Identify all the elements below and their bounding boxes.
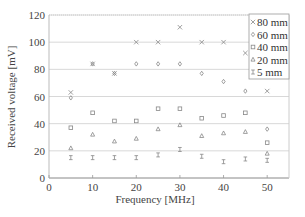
data-point-80mm <box>69 90 73 94</box>
data-point-5mm <box>265 158 269 162</box>
x-tick-label: 20 <box>131 181 143 193</box>
y-tick-label: 20 <box>34 145 46 157</box>
data-point-40mm <box>91 111 95 115</box>
data-point-20mm <box>156 127 160 131</box>
data-point-40mm <box>265 141 269 145</box>
data-point-40mm <box>244 111 248 115</box>
y-axis-title: Received voltage [mV] <box>5 46 17 149</box>
legend: 80 mm60 mm40 mm20 mm5 mm <box>249 14 289 79</box>
y-tick-label: 60 <box>34 91 46 103</box>
data-point-60mm <box>244 89 247 93</box>
legend-entry: 60 mm <box>257 29 288 41</box>
data-point-20mm <box>222 131 226 135</box>
data-point-60mm <box>222 79 225 83</box>
data-point-5mm <box>156 153 160 157</box>
data-point-40mm <box>200 116 204 120</box>
data-point-20mm <box>243 130 247 134</box>
data-point-60mm <box>178 62 181 66</box>
data-point-20mm <box>200 134 204 138</box>
x-axis-title: Frequency [MHz] <box>115 193 194 205</box>
y-tick-label: 40 <box>34 118 46 130</box>
data-point-80mm <box>243 51 247 55</box>
data-point-20mm <box>134 136 138 140</box>
data-points <box>69 25 270 164</box>
y-axis-ticks: 020406080100120 <box>29 9 46 184</box>
data-point-5mm <box>244 157 248 161</box>
data-point-60mm <box>156 62 159 66</box>
data-point-5mm <box>69 156 73 160</box>
data-point-40mm <box>69 126 73 130</box>
legend-entry: 40 mm <box>257 41 288 53</box>
x-tick-label: 0 <box>46 181 52 193</box>
data-point-80mm <box>178 25 182 29</box>
data-point-40mm <box>222 114 226 118</box>
data-point-20mm <box>265 151 269 155</box>
data-point-40mm <box>113 119 117 123</box>
x-tick-label: 10 <box>87 181 99 193</box>
x-tick-label: 40 <box>218 181 230 193</box>
legend-entry: 20 mm <box>257 54 288 66</box>
data-point-20mm <box>112 139 116 143</box>
y-tick-label: 100 <box>29 36 46 48</box>
y-tick-label: 80 <box>34 63 46 75</box>
y-tick-label: 0 <box>40 172 46 184</box>
data-point-40mm <box>134 119 138 123</box>
data-point-60mm <box>266 127 269 131</box>
data-point-60mm <box>135 62 138 66</box>
data-point-60mm <box>200 71 203 75</box>
data-point-5mm <box>113 156 117 160</box>
scatter-chart: 020406080100120 01020304050 Frequency [M… <box>0 0 305 217</box>
legend-entry: 5 mm <box>257 66 283 78</box>
x-tick-label: 50 <box>262 181 274 193</box>
data-point-20mm <box>69 146 73 150</box>
data-point-20mm <box>91 132 95 136</box>
x-tick-label: 30 <box>174 181 186 193</box>
data-point-40mm <box>178 107 182 111</box>
y-tick-label: 120 <box>29 9 46 21</box>
data-point-5mm <box>91 156 95 160</box>
data-point-5mm <box>200 154 204 158</box>
data-point-5mm <box>134 156 138 160</box>
data-point-5mm <box>222 160 226 164</box>
legend-entry: 80 mm <box>257 16 288 28</box>
data-point-40mm <box>156 107 160 111</box>
data-point-80mm <box>265 89 269 93</box>
